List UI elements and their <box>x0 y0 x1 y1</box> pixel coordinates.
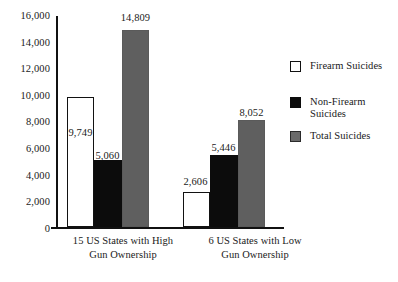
open-square-swatch-icon <box>290 61 301 72</box>
y-tick-10000: 10,000 <box>2 91 50 101</box>
y-tick-4000: 4,000 <box>2 171 50 181</box>
legend-item-non-firearm-suicides[interactable]: Non-Firearm Suicides <box>290 96 365 119</box>
bar-label-low-total: 8,052 <box>224 107 279 118</box>
y-tick-14000: 14,000 <box>2 38 50 48</box>
bar-label-high-total: 14,809 <box>108 12 163 23</box>
legend-label-total-suicides: Total Suicides <box>310 130 370 142</box>
y-axis-line <box>56 16 58 229</box>
legend-label-firearm-suicides: Firearm Suicides <box>310 60 382 72</box>
y-tick-2000: 2,000 <box>2 197 50 207</box>
bar-high-firearm[interactable] <box>67 97 94 227</box>
plot-area: 9,749 5,060 14,809 2,606 5,446 8,052 <box>56 16 284 229</box>
legend-item-firearm-suicides[interactable]: Firearm Suicides <box>290 60 382 72</box>
y-tick-8000: 8,000 <box>2 117 50 127</box>
gray-square-swatch-icon <box>290 131 301 142</box>
x-axis-line <box>56 227 284 229</box>
y-axis-zero-tick <box>51 227 57 229</box>
suicides-bar-chart: 16,000 14,000 12,000 10,000 8,000 6,000 … <box>0 0 398 282</box>
y-tick-0: 0 <box>2 224 50 234</box>
black-square-swatch-icon <box>290 97 301 108</box>
x-category-label-low-gun-ownership: 6 US States with Low Gun Ownership <box>186 234 324 261</box>
bar-low-firearm[interactable] <box>183 192 210 227</box>
bar-high-nonfirearm[interactable] <box>94 160 122 227</box>
legend-item-total-suicides[interactable]: Total Suicides <box>290 130 370 142</box>
y-tick-12000: 12,000 <box>2 64 50 74</box>
y-tick-6000: 6,000 <box>2 144 50 154</box>
legend-label-non-firearm-suicides: Non-Firearm Suicides <box>310 96 365 119</box>
y-axis-tick-labels: 16,000 14,000 12,000 10,000 8,000 6,000 … <box>0 16 50 229</box>
bar-low-nonfirearm[interactable] <box>210 155 238 228</box>
y-tick-16000: 16,000 <box>2 11 50 21</box>
x-category-label-high-gun-ownership: 15 US States with High Gun Ownership <box>48 234 198 261</box>
bar-label-high-firearm: 9,749 <box>55 127 106 138</box>
bar-low-total[interactable] <box>238 120 265 227</box>
bar-high-total[interactable] <box>122 30 149 227</box>
